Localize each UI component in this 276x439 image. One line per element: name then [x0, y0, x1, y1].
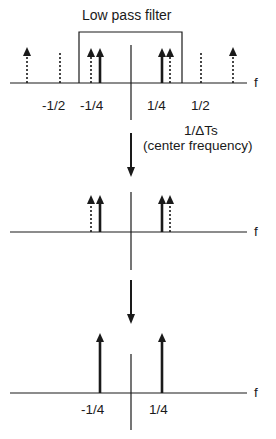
axis-label-f: f	[254, 386, 258, 400]
dashed-arrow-icon	[23, 47, 31, 83]
axis-label-f: f	[254, 76, 258, 90]
solid-arrow-icon	[158, 195, 166, 232]
dashed-arrow-icon	[87, 48, 95, 83]
center-frequency-label: 1/ΔTs	[184, 124, 218, 138]
down-arrow-icon	[127, 133, 135, 177]
solid-arrow-icon	[96, 333, 104, 393]
dashed-arrow-icon	[87, 195, 95, 232]
tick-label-pos-quarter: 1/4	[149, 403, 168, 417]
center-frequency-caption: (center frequency)	[143, 139, 253, 153]
tick-label-pos-half: 1/2	[191, 99, 210, 113]
tick-label-pos-quarter: 1/4	[147, 99, 166, 113]
low-pass-filter-label: Low pass filter	[82, 8, 171, 22]
solid-arrow-icon	[158, 333, 166, 393]
stage-3	[10, 333, 247, 430]
solid-arrow-icon	[158, 48, 166, 83]
dashed-arrow-icon	[166, 195, 174, 232]
diagram-canvas	[0, 0, 276, 439]
tick-label-neg-quarter: -1/4	[81, 403, 104, 417]
tick-label-neg-quarter: -1/4	[80, 99, 103, 113]
tick-label-neg-half: -1/2	[42, 99, 65, 113]
solid-arrow-icon	[96, 48, 104, 83]
axis-label-f: f	[254, 225, 258, 239]
dashed-arrow-icon	[166, 48, 174, 83]
solid-arrow-icon	[96, 195, 104, 232]
stage-2	[10, 192, 247, 270]
down-arrow-icon	[127, 280, 135, 324]
dashed-arrow-icon	[229, 47, 237, 83]
